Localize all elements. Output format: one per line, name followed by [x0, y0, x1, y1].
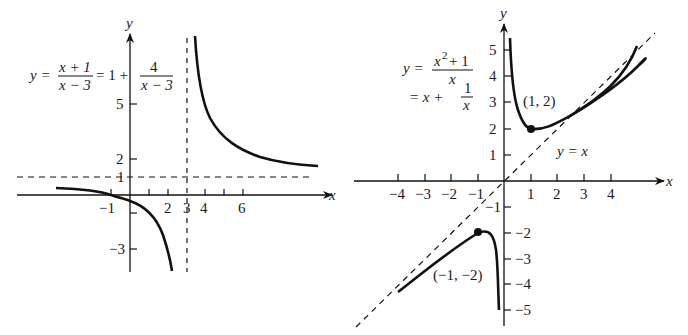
y-tick-label: 3 [489, 94, 497, 110]
right-chart: −4 −3 −2 −1 1 2 3 4 5 4 3 2 1 −1 −2 −3 −… [354, 5, 673, 327]
x-axis-label: x [328, 187, 336, 203]
svg-text:x: x [462, 97, 470, 113]
svg-text:x + 1: x + 1 [58, 59, 91, 75]
y-tick-label: 5 [489, 42, 497, 58]
x-tick-label: 4 [607, 186, 615, 202]
equation-right: y = x 2 + 1 x = x + 1 x [401, 49, 473, 113]
equation-left: y = x + 1 x − 3 = 1 + 4 x − 3 [28, 59, 173, 93]
y-tick-label: 5 [116, 96, 124, 112]
y-tick-label: 2 [116, 151, 124, 167]
x-tick-label: 1 [527, 186, 535, 202]
y-tick-label: −2 [515, 225, 531, 241]
svg-text:4: 4 [150, 59, 158, 75]
x-tick-label: −4 [389, 186, 405, 202]
svg-text:2: 2 [442, 49, 448, 61]
svg-text:x − 3: x − 3 [140, 77, 173, 93]
curve-positive-tail [570, 46, 637, 116]
x-tick-label: 2 [164, 200, 172, 216]
y-tick-label: 1 [489, 147, 497, 163]
y-tick-label: 2 [489, 121, 497, 137]
left-chart: −1 2 3 4 6 5 2 1 −3 x y y = x + 1 x − 3 … [17, 15, 336, 272]
svg-text:y =: y = [28, 67, 51, 83]
figure: −1 2 3 4 6 5 2 1 −3 x y y = x + 1 x − 3 … [0, 0, 688, 335]
x-tick-label: 3 [183, 200, 191, 216]
point-max [474, 228, 482, 236]
svg-text:y =: y = [401, 60, 424, 76]
svg-text:x: x [448, 71, 456, 87]
y-tick-label: 4 [489, 68, 497, 84]
svg-text:x: x [433, 53, 441, 69]
x-tick-label: 6 [238, 200, 246, 216]
point-min [527, 125, 535, 133]
point-label-max: (−1, −2) [433, 267, 482, 284]
x-axis-label: x [665, 173, 673, 189]
curve-positive-branch [510, 38, 646, 129]
oblique-asymptote [356, 33, 655, 327]
svg-text:= x +: = x + [409, 89, 443, 105]
x-tick-label: 2 [553, 186, 561, 202]
y-axis-label: y [124, 15, 133, 31]
x-ticks [111, 189, 243, 195]
y-axis-label: y [498, 5, 507, 21]
curve-right-branch [195, 36, 318, 166]
y-tick-label: −3 [515, 251, 531, 267]
x-tick-label: −1 [99, 200, 115, 216]
y-tick-label: −5 [515, 302, 531, 318]
y-tick-label: −3 [109, 241, 125, 257]
x-tick-label: 3 [580, 186, 588, 202]
svg-text:= 1 +: = 1 + [96, 67, 128, 83]
y-tick-label: −1 [485, 199, 501, 215]
x-tick-label: −3 [415, 186, 431, 202]
svg-text:x − 3: x − 3 [58, 77, 91, 93]
x-tick-label: −2 [441, 186, 457, 202]
x-tick-label: −1 [468, 186, 484, 202]
x-tick-label: 4 [200, 200, 208, 216]
point-label-min: (1, 2) [523, 93, 556, 110]
svg-text:+ 1: + 1 [449, 53, 469, 69]
svg-text:1: 1 [464, 80, 472, 96]
y-tick-label: 1 [117, 169, 125, 185]
asymptote-label: y = x [555, 143, 588, 159]
y-tick-label: −4 [515, 276, 531, 292]
